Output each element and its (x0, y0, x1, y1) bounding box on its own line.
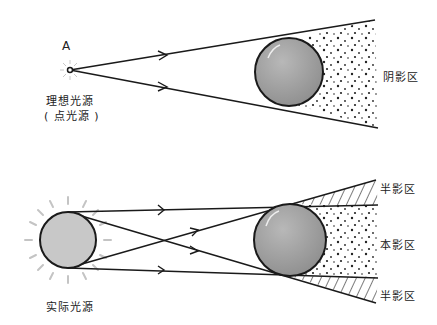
real-light-source (40, 212, 96, 268)
penumbra-top-label: 半影区 (380, 180, 416, 196)
real-source-label: 实际光源 (46, 298, 94, 314)
obstacle-sphere (254, 204, 326, 276)
point-a-label: A (62, 39, 71, 53)
arrow-icon (158, 205, 198, 274)
real-light-diagram (25, 180, 378, 303)
umbra-label: 本影区 (380, 236, 416, 252)
point-source (68, 68, 73, 73)
shadow-region-label: 阴影区 (383, 68, 419, 84)
obstacle-sphere (255, 38, 323, 106)
ideal-light-diagram (60, 20, 378, 128)
point-source-label: ( 点光源 ) (44, 107, 100, 123)
penumbra-bottom-label: 半影区 (380, 287, 416, 303)
ideal-source-label: 理想光源 (46, 92, 94, 108)
